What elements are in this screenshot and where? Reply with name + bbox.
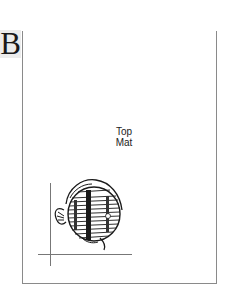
mat-label-line2: Mat: [104, 137, 144, 148]
figure-label: B: [0, 30, 21, 58]
top-mat-label: Top Mat: [104, 126, 144, 148]
crop-mark-vertical: [50, 183, 51, 266]
crop-mark-horizontal: [38, 254, 132, 255]
mat-label-line1: Top: [104, 126, 144, 137]
fish-icon: [52, 176, 126, 252]
